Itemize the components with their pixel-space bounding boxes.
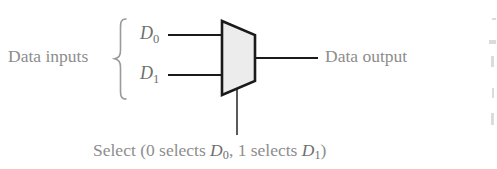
caption-select-d0: D0 <box>210 140 229 160</box>
edge-artifact-5 <box>491 113 494 125</box>
multiplexer-body <box>222 21 255 95</box>
caption-select-middle: , 1 selects <box>229 140 302 160</box>
label-input-d1-letter: D <box>140 63 153 83</box>
edge-artifact-4 <box>492 88 494 98</box>
edge-artifact-1 <box>492 18 496 20</box>
label-input-d1: D1 <box>140 63 159 87</box>
label-data-inputs: Data inputs <box>8 46 88 67</box>
edge-artifact-2 <box>489 40 496 44</box>
caption-select-prefix: Select (0 selects <box>93 140 210 160</box>
label-input-d1-subscript: 1 <box>153 72 159 86</box>
label-data-output: Data output <box>325 46 407 67</box>
caption-select-d1-letter: D <box>302 140 315 160</box>
edge-artifact-3 <box>491 56 494 67</box>
caption-select-suffix: ) <box>321 140 327 160</box>
caption-select-d0-letter: D <box>210 140 223 160</box>
caption-select: Select (0 selects D0, 1 selects D1) <box>93 140 326 163</box>
label-input-d0: D0 <box>140 23 159 47</box>
label-input-d0-subscript: 0 <box>153 32 159 46</box>
mux-figure: Data inputs D0 D1 Data output Select (0 … <box>0 0 497 169</box>
caption-select-d1: D1 <box>302 140 321 160</box>
label-input-d0-letter: D <box>140 23 153 43</box>
left-curly-brace <box>115 19 127 99</box>
